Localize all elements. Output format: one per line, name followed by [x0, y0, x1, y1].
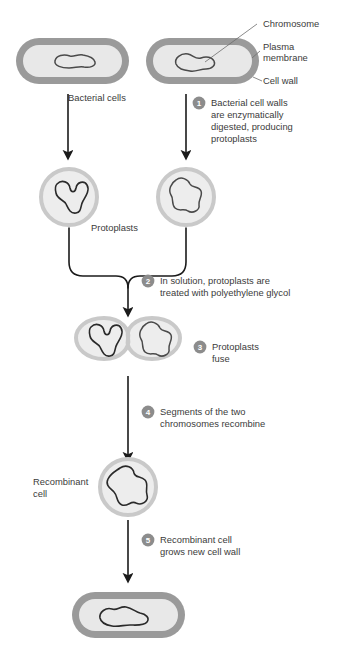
callout-label-cell-wall: Cell wall: [263, 75, 298, 86]
cytoplasm-right: [153, 45, 252, 77]
step-badge-1: 1: [193, 97, 206, 110]
step-1-line-1: Bacterial cell walls: [211, 97, 288, 108]
step-1-number: 1: [197, 99, 202, 108]
protoplast-membrane-left: [41, 169, 97, 225]
step-3-line-2: fuse: [212, 353, 230, 364]
step-1-line-3: digested, producing: [211, 121, 293, 132]
step-5-number: 5: [146, 536, 151, 545]
step-badge-5: 5: [142, 534, 155, 547]
protoplast-fusion-diagram: Chromosome Plasma membrane Cell wall Bac…: [0, 0, 342, 647]
step-2-number: 2: [146, 277, 151, 286]
label-recombinant-cell-line2: cell: [33, 488, 47, 499]
cytoplasm-left: [23, 45, 122, 77]
diagram-canvas: Chromosome Plasma membrane Cell wall Bac…: [0, 0, 342, 647]
step-1-line-4: protoplasts: [211, 133, 257, 144]
leader-cell-wall: [253, 77, 262, 81]
label-recombinant-cell-line1: Recombinant: [33, 476, 89, 487]
label-bacterial-cells: Bacterial cells: [68, 92, 126, 103]
callout-label-plasma-membrane-line2: membrane: [263, 52, 308, 63]
step-badge-4: 4: [142, 406, 155, 419]
step-5-line-2: grows new cell wall: [160, 546, 240, 557]
protoplast-membrane-right: [158, 169, 214, 225]
step-badge-3: 3: [194, 341, 207, 354]
protoplast-right: [158, 169, 214, 225]
step-2-line-2: treated with polyethylene glycol: [160, 287, 290, 298]
fused-protoplast: [76, 318, 180, 359]
step-1-line-2: are enzymatically: [211, 109, 284, 120]
step-4-line-1: Segments of the two: [160, 406, 245, 417]
label-protoplasts: Protoplasts: [91, 222, 138, 233]
step-4-line-2: chromosomes recombine: [160, 418, 265, 429]
final-bacterial-cell: [72, 592, 185, 638]
bacterial-cell-left: [16, 38, 129, 84]
step-3-line-1: Protoplasts: [212, 341, 259, 352]
step-3-number: 3: [198, 343, 203, 352]
callout-label-plasma-membrane-line1: Plasma: [263, 41, 295, 52]
cytoplasm-final: [79, 599, 178, 631]
protoplast-left: [41, 169, 97, 225]
bacterial-cell-right: [146, 38, 259, 84]
callout-label-chromosome: Chromosome: [263, 18, 319, 29]
step-4-number: 4: [146, 408, 151, 417]
recombinant-protoplast: [100, 459, 156, 515]
step-badge-2: 2: [142, 275, 155, 288]
step-2-line-1: In solution, protoplasts are: [160, 275, 270, 286]
step-5-line-1: Recombinant cell: [160, 534, 232, 545]
